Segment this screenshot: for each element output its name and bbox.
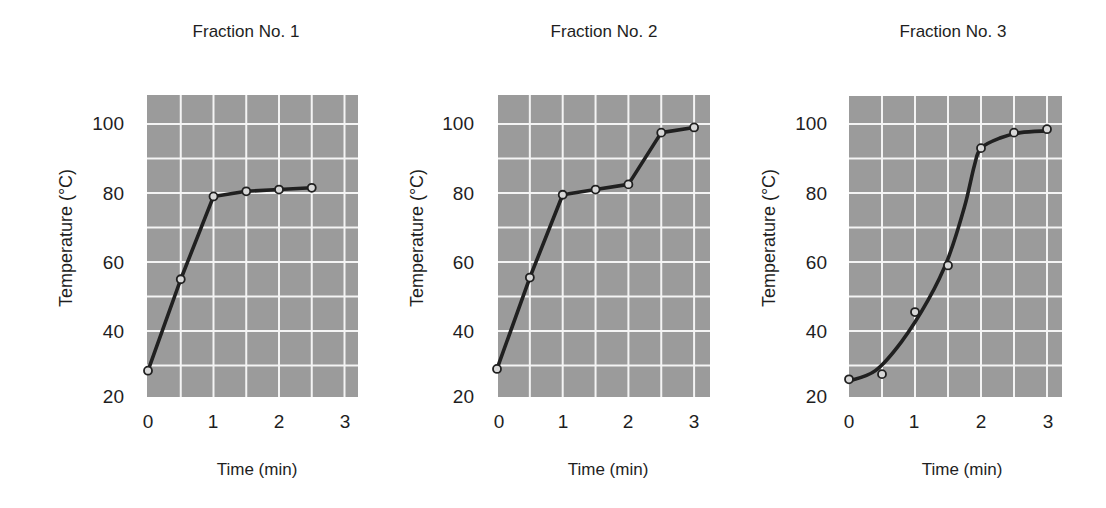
plot-area: [0, 0, 1106, 508]
chart-fraction-3: Fraction No. 3 Temperature (°C) 100 80 6…: [0, 0, 1106, 508]
data-point-marker: [977, 144, 985, 152]
data-point-marker: [944, 261, 952, 269]
data-point-marker: [1010, 129, 1018, 137]
data-point-marker: [911, 308, 919, 316]
data-point-marker: [845, 375, 853, 383]
plot-background: [849, 96, 1062, 397]
data-point-marker: [1043, 125, 1051, 133]
data-point-marker: [878, 370, 886, 378]
